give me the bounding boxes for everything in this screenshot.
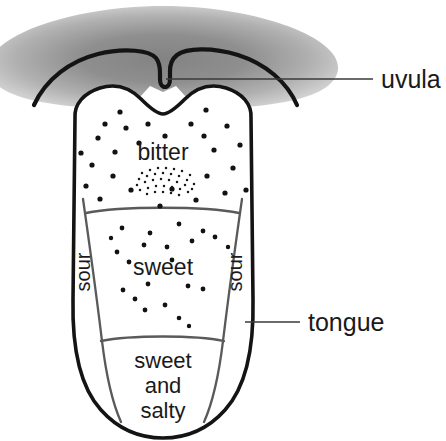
soft-palate-shape [0,6,338,107]
uvula-label: uvula [381,65,441,93]
region-label-sweet-and-salty-line-2: and [145,373,182,398]
tongue-diagram-figure: uvula tongue bitter sour sour sweet swee… [0,0,446,441]
region-label-bitter: bitter [137,139,188,165]
region-label-sweet-and-salty-line-3: salty [140,398,185,423]
callout-tongue: tongue [245,308,384,336]
region-label-sour-left: sour [72,252,94,291]
region-label-sweet-and-salty-line-1: sweet [134,348,191,373]
region-label-sweet: sweet [133,254,194,280]
diagram-canvas: uvula tongue bitter sour sour sweet swee… [0,0,446,441]
region-label-sour-right: sour [224,252,246,291]
tongue-label: tongue [308,308,384,336]
